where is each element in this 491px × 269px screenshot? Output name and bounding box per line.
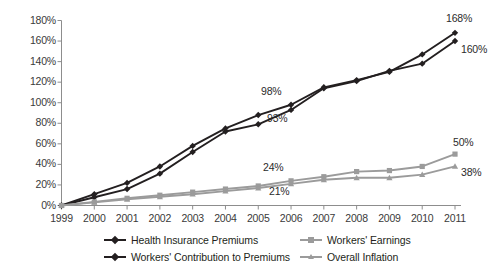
y-axis-tick-160: 160% bbox=[6, 34, 56, 46]
series-line-0 bbox=[58, 38, 458, 209]
data-label-50-2011: 50% bbox=[453, 136, 473, 148]
y-axis-tick-80: 80% bbox=[6, 116, 56, 128]
legend-marker-diamond-icon bbox=[104, 235, 126, 245]
legend-marker-triangle-icon bbox=[300, 252, 322, 262]
legend-item-3[interactable]: Overall Inflation bbox=[300, 251, 484, 263]
legend-label: Overall Inflation bbox=[327, 251, 398, 263]
legend-label: Workers' Contribution to Premiums bbox=[131, 251, 290, 263]
data-label-93-2006: 93% bbox=[267, 112, 287, 124]
y-axis-tick-60: 60% bbox=[6, 137, 56, 149]
y-axis-tick-20: 20% bbox=[6, 178, 56, 190]
legend-marker-square-icon bbox=[300, 235, 322, 245]
chart-plot-area bbox=[0, 0, 491, 269]
y-axis-tick-40: 40% bbox=[6, 157, 56, 169]
chart-container: 0%20%40%60%80%100%120%140%160%180% 19992… bbox=[0, 0, 491, 269]
legend-marker-diamond-icon bbox=[104, 252, 126, 262]
y-axis-tick-100: 100% bbox=[6, 96, 56, 108]
legend-item-0[interactable]: Health Insurance Premiums bbox=[104, 234, 300, 246]
legend-label: Health Insurance Premiums bbox=[131, 234, 258, 246]
data-label-98-2006: 98% bbox=[261, 85, 281, 97]
legend-label: Workers' Earnings bbox=[327, 234, 411, 246]
data-label-38-2011: 38% bbox=[461, 166, 481, 178]
y-axis-tick-140: 140% bbox=[6, 55, 56, 67]
data-label-21-2006: 21% bbox=[269, 185, 289, 197]
series-line-1 bbox=[58, 30, 458, 209]
y-axis-tick-180: 180% bbox=[6, 14, 56, 26]
data-label-160-2011: 160% bbox=[461, 43, 487, 55]
chart-legend: Health Insurance PremiumsWorkers' Earnin… bbox=[104, 231, 484, 265]
legend-item-2[interactable]: Workers' Contribution to Premiums bbox=[104, 251, 300, 263]
data-label-168-2011: 168% bbox=[446, 12, 472, 24]
legend-item-1[interactable]: Workers' Earnings bbox=[300, 234, 484, 246]
chart-series-group bbox=[58, 30, 458, 209]
y-axis-tick-120: 120% bbox=[6, 75, 56, 87]
y-axis-tick-0: 0% bbox=[6, 199, 56, 211]
data-label-24-2006: 24% bbox=[263, 161, 283, 173]
x-axis-tick-2011: 2011 bbox=[434, 212, 476, 224]
